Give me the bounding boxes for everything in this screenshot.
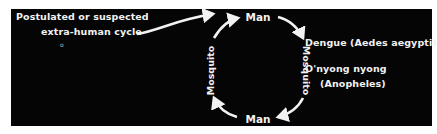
- disease-onyong-nyong: O'nyong nyong: [305, 63, 387, 74]
- extra-cycle-label-line2: extra-human cycle: [41, 26, 142, 37]
- arrow-mosquito-left-to-man-top: [214, 18, 238, 38]
- node-mosquito-left: Mosquito: [205, 45, 216, 95]
- node-man-bottom: Man: [245, 113, 270, 125]
- arrow-man-bottom-to-mosquito-left: [214, 98, 237, 117]
- disease-onyong-nyong-vector: (Anopheles): [320, 78, 386, 89]
- arrow-mosquito-right-to-man-bottom: [278, 98, 303, 117]
- disease-dengue: Dengue (Aedes aegypti): [305, 37, 437, 48]
- node-mosquito-left-text: Mosquito: [205, 45, 216, 95]
- small-circle-mark: o: [60, 41, 64, 48]
- extra-cycle-label-line1: Postulated or suspected: [16, 11, 149, 22]
- node-man-top: Man: [245, 11, 270, 23]
- arrow-man-top-to-mosquito-right: [278, 17, 303, 38]
